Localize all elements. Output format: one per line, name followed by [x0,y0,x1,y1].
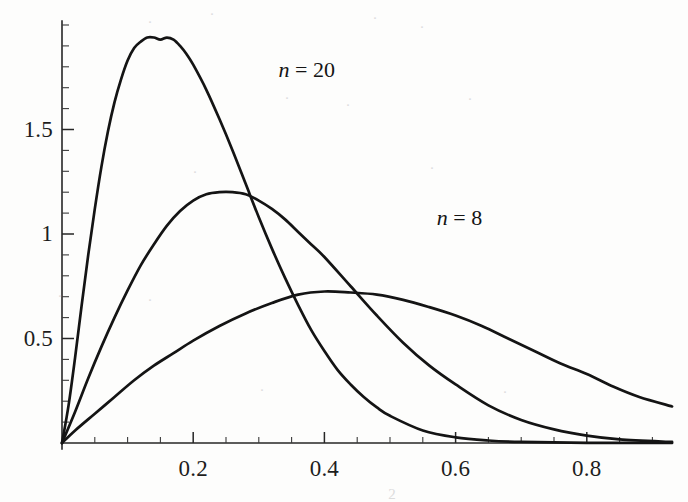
scan-artifact: 2 [388,486,396,502]
y-tick-label: 1 [41,221,53,247]
annotation-variable: n [437,205,448,230]
plot-area [0,0,688,502]
annotation-value: = 8 [448,205,482,230]
scan-artifact: · [193,164,198,181]
axes-group [62,21,670,449]
series-annotation: n = 8 [437,205,482,231]
chart-figure: 0.20.40.60.8 0.511.5 n = 20n = 8n = 3 ··… [0,0,688,502]
density-curve [62,37,672,443]
scan-artifact: · [373,10,378,27]
scan-artifact: · [346,97,351,114]
scan-artifact: · [503,384,508,401]
scan-artifact: · [260,382,265,399]
scan-artifact: · [430,160,435,177]
curve-group [62,37,672,443]
scan-artifact: · [148,14,153,31]
x-tick-label: 0.2 [179,456,208,482]
density-curve [62,291,672,443]
annotation-variable: n [278,57,289,82]
annotation-value: = 20 [289,57,334,82]
density-curve [62,192,672,443]
y-tick-label: 1.5 [24,117,53,143]
series-annotation: n = 20 [278,57,334,83]
scan-artifact: · [210,6,215,23]
y-axis-ticks [62,25,74,422]
x-tick-label: 0.6 [441,456,470,482]
x-tick-label: 0.8 [572,456,601,482]
scan-artifact: · [148,292,153,309]
scan-artifact: · [285,90,290,107]
y-tick-label: 0.5 [24,326,53,352]
x-tick-label: 0.4 [310,456,339,482]
scan-artifact: · [468,91,473,108]
scan-artifact: · [420,19,425,36]
scan-artifact: · [58,288,63,305]
